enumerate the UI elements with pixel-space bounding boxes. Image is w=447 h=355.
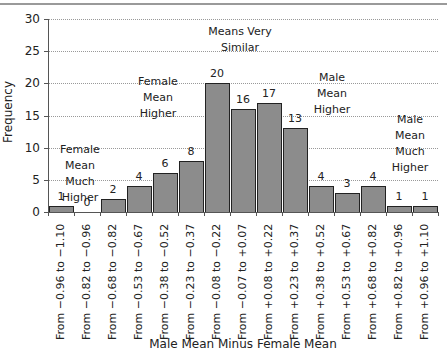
x-tick-label-text: From +0.53 to +0.67 <box>341 224 353 340</box>
x-tick-label: From +0.82 to +0.96 <box>393 222 405 342</box>
y-tick-label: 30 <box>14 13 40 25</box>
x-axis <box>48 212 438 213</box>
y-axis <box>48 19 49 213</box>
x-tick <box>360 212 361 216</box>
x-tick-label-text: From −0.82 to −0.96 <box>81 224 93 340</box>
annotation-line: Much <box>52 174 108 190</box>
bar-value-label: 6 <box>152 158 178 169</box>
x-tick-label: From −0.53 to −0.67 <box>133 222 145 342</box>
x-tick-label-text: From −0.23 to −0.37 <box>185 224 197 340</box>
x-tick <box>308 212 309 216</box>
x-tick-label: From +0.38 to +0.52 <box>315 222 327 342</box>
x-tick <box>204 212 205 216</box>
x-tick <box>334 212 335 216</box>
annotation-line: Means Very <box>200 24 280 40</box>
annotation-line: Female <box>128 74 188 90</box>
y-tick-label: 20 <box>14 77 40 89</box>
x-tick <box>152 212 153 216</box>
x-tick-label-text: From −0.53 to −0.67 <box>133 224 145 340</box>
bar <box>127 186 152 213</box>
x-tick-label-text: From −0.07 to +0.07 <box>237 224 249 340</box>
bar <box>231 109 256 213</box>
bar <box>335 193 360 213</box>
x-axis-title: Male Mean Minus Female Mean <box>48 337 438 351</box>
x-tick-label-text: From +0.68 to +0.82 <box>367 224 379 340</box>
bar <box>309 186 334 213</box>
x-tick <box>74 212 75 216</box>
annotation-line: Mean <box>128 90 188 106</box>
annotation-line: Mean <box>52 158 108 174</box>
bar-value-label: 8 <box>178 146 204 157</box>
x-tick-label: From −0.23 to −0.37 <box>185 222 197 342</box>
x-tick-label: From +0.53 to +0.67 <box>341 222 353 342</box>
bar-value-label: 4 <box>126 171 152 182</box>
x-tick-label-text: From −0.38 to −0.52 <box>159 224 171 340</box>
bar <box>153 173 178 213</box>
bar-value-label: 3 <box>334 178 360 189</box>
x-tick-label: From +0.23 to +0.37 <box>289 222 301 342</box>
x-tick-label-text: From −0.08 to −0.22 <box>211 224 223 340</box>
x-tick-label-text: From +0.38 to +0.52 <box>315 224 327 340</box>
x-tick-label: From −0.38 to −0.52 <box>159 222 171 342</box>
bar-value-label: 20 <box>204 68 230 79</box>
x-tick <box>412 212 413 216</box>
bar-value-label: 1 <box>386 191 412 202</box>
x-tick <box>282 212 283 216</box>
x-tick <box>386 212 387 216</box>
annotation-line: Female <box>52 142 108 158</box>
x-tick-label-text: From +0.08 to +0.22 <box>263 224 275 340</box>
x-tick-label-text: From +0.82 to +0.96 <box>393 224 405 340</box>
y-tick-label: 5 <box>14 174 40 186</box>
annotation-line: Similar <box>200 40 280 56</box>
x-tick-label-text: From −0.96 to −1.10 <box>55 224 67 340</box>
bar <box>179 161 204 213</box>
top-border <box>0 3 447 5</box>
x-tick <box>126 212 127 216</box>
x-tick-label: From +0.08 to +0.22 <box>263 222 275 342</box>
annotation-line: Much <box>382 144 438 160</box>
y-axis-title: Frequency <box>1 83 15 143</box>
x-tick-label-text: From +0.23 to +0.37 <box>289 224 301 340</box>
annotation-male-higher: Male Mean Higher <box>304 70 360 118</box>
x-tick-label: From −0.08 to −0.22 <box>211 222 223 342</box>
annotation-female-much-higher: Female Mean Much Higher <box>52 142 108 206</box>
bar <box>257 103 282 213</box>
y-tick-label: 25 <box>14 45 40 57</box>
annotation-line: Male <box>304 70 360 86</box>
x-tick <box>100 212 101 216</box>
x-tick <box>178 212 179 216</box>
annotation-means-similar: Means Very Similar <box>200 24 280 56</box>
bar <box>205 83 230 213</box>
annotation-line: Mean <box>382 128 438 144</box>
x-tick-label: From +0.68 to +0.82 <box>367 222 379 342</box>
bar-value-label: 17 <box>256 88 282 99</box>
bar <box>283 128 308 213</box>
annotation-line: Higher <box>304 102 360 118</box>
bar-value-label: 1 <box>412 191 438 202</box>
x-tick-label-text: From −0.68 to −0.82 <box>107 224 119 340</box>
annotation-line: Higher <box>382 160 438 176</box>
bar-value-label: 16 <box>230 94 256 105</box>
annotation-line: Male <box>382 112 438 128</box>
y-tick-label: 15 <box>14 110 40 122</box>
x-tick-label: From −0.96 to −1.10 <box>55 222 67 342</box>
annotation-line: Higher <box>52 190 108 206</box>
x-tick-label: From −0.68 to −0.82 <box>107 222 119 342</box>
annotation-line: Higher <box>128 106 188 122</box>
bar <box>361 186 386 213</box>
bar-value-label: 4 <box>308 171 334 182</box>
annotation-female-higher: Female Mean Higher <box>128 74 188 122</box>
y-tick-label: 0 <box>14 206 40 218</box>
annotation-male-much-higher: Male Mean Much Higher <box>382 112 438 176</box>
x-tick-label: From +0.96 to +1.10 <box>419 222 431 342</box>
y-tick-label: 10 <box>14 142 40 154</box>
x-tick <box>438 212 439 216</box>
gridline-20 <box>48 83 438 84</box>
annotation-line: Mean <box>304 86 360 102</box>
x-tick-label-text: From +0.96 to +1.10 <box>419 224 431 340</box>
x-tick-label: From −0.07 to +0.07 <box>237 222 249 342</box>
x-tick-label: From −0.82 to −0.96 <box>81 222 93 342</box>
x-tick <box>230 212 231 216</box>
x-tick <box>256 212 257 216</box>
gridline-30 <box>48 19 438 20</box>
